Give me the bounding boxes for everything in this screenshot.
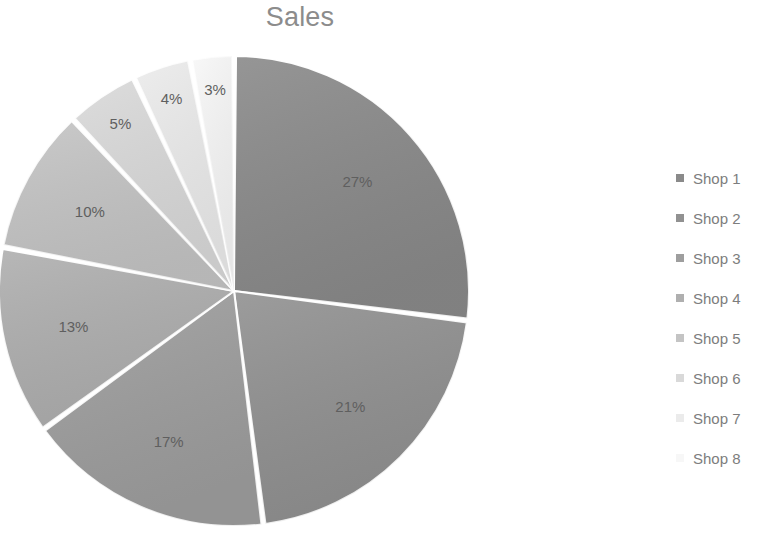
legend-item[interactable]: Shop 1 xyxy=(676,158,758,198)
legend-item[interactable]: Shop 3 xyxy=(676,238,758,278)
chart-legend: Shop 1Shop 2Shop 3Shop 4Shop 5Shop 6Shop… xyxy=(676,158,758,478)
pie-svg: 27%21%17%13%10%5%4%3% xyxy=(0,48,480,534)
legend-color-swatch xyxy=(676,334,684,342)
legend-color-swatch xyxy=(676,214,684,222)
legend-item-label: Shop 8 xyxy=(693,451,741,466)
pie-data-label: 10% xyxy=(75,203,105,220)
pie-slices-group xyxy=(0,56,469,526)
pie-data-label: 21% xyxy=(335,398,365,415)
legend-item-label: Shop 1 xyxy=(693,171,741,186)
legend-item[interactable]: Shop 2 xyxy=(676,198,758,238)
chart-title: Sales xyxy=(0,2,600,33)
pie-data-label: 27% xyxy=(342,173,372,190)
pie-data-label: 4% xyxy=(161,90,183,107)
legend-item[interactable]: Shop 5 xyxy=(676,318,758,358)
legend-item-label: Shop 2 xyxy=(693,211,741,226)
pie-data-label: 3% xyxy=(204,81,226,98)
legend-color-swatch xyxy=(676,374,684,382)
legend-item[interactable]: Shop 8 xyxy=(676,438,758,478)
legend-color-swatch xyxy=(676,294,684,302)
legend-color-swatch xyxy=(676,414,684,422)
legend-color-swatch xyxy=(676,454,684,462)
pie-data-label: 13% xyxy=(58,318,88,335)
legend-item[interactable]: Shop 4 xyxy=(676,278,758,318)
legend-item[interactable]: Shop 6 xyxy=(676,358,758,398)
legend-color-swatch xyxy=(676,174,684,182)
legend-item-label: Shop 4 xyxy=(693,291,741,306)
legend-item-label: Shop 7 xyxy=(693,411,741,426)
pie-plot-area: 27%21%17%13%10%5%4%3% xyxy=(0,48,480,534)
legend-item[interactable]: Shop 7 xyxy=(676,398,758,438)
pie-data-label: 17% xyxy=(154,433,184,450)
pie-data-label: 5% xyxy=(110,115,132,132)
pie-chart-container: Sales 27%21%17%13%10%5%4%3% Shop 1Shop 2… xyxy=(0,0,758,540)
legend-item-label: Shop 6 xyxy=(693,371,741,386)
legend-item-label: Shop 5 xyxy=(693,331,741,346)
legend-item-label: Shop 3 xyxy=(693,251,741,266)
legend-color-swatch xyxy=(676,254,684,262)
